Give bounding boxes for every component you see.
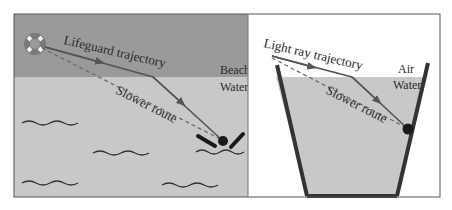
beach-area <box>14 14 248 77</box>
light-target-dot <box>403 124 414 135</box>
air-label: Air <box>398 62 414 76</box>
lifebuoy-icon <box>24 33 46 55</box>
left-water-label: Water <box>220 80 248 94</box>
right-water-label: Water <box>393 78 421 92</box>
beach-label: Beach <box>220 63 250 77</box>
left-panel: Lifeguard trajectory Slower route Beach … <box>14 14 250 197</box>
refraction-diagram: Lifeguard trajectory Slower route Beach … <box>0 0 452 210</box>
right-panel: Light ray trajectory Slower route Air Wa… <box>248 14 440 197</box>
